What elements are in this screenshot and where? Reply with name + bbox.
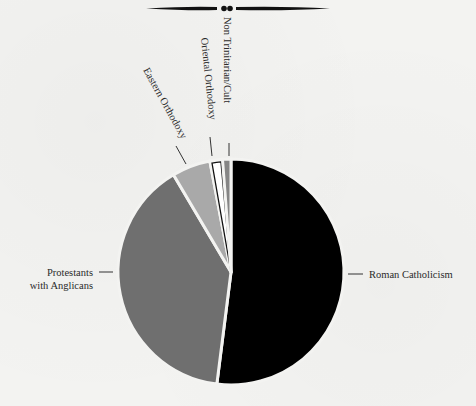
pie-chart: Roman Catholicism Protestants with Angli…: [0, 0, 476, 406]
label-protestants-line1: Protestants: [47, 267, 93, 278]
pie-slice-roman-catholicism: [217, 159, 344, 385]
ornamental-divider: [146, 6, 330, 12]
label-roman-catholicism: Roman Catholicism: [369, 269, 453, 280]
label-eastern-orthodoxy: Eastern Orthodoxy: [141, 66, 190, 142]
label-oriental-orthodoxy: Oriental Orthodoxy: [199, 37, 219, 121]
label-protestants-line2: with Anglicans: [30, 280, 93, 291]
label-non-trinitarian: Non Trinitarian/Cult: [222, 17, 233, 103]
pie-slices: [118, 159, 344, 385]
